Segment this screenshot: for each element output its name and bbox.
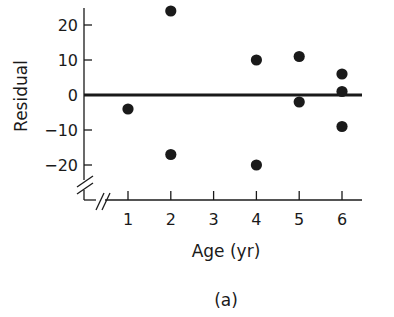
data-point xyxy=(251,54,262,65)
y-tick-label: −20 xyxy=(44,156,78,175)
data-point xyxy=(336,86,347,97)
x-tick-label: 3 xyxy=(209,210,219,229)
data-point xyxy=(165,149,176,160)
x-tick-label: 6 xyxy=(337,210,347,229)
ticks: 20100−10−20123456 xyxy=(44,16,347,229)
y-tick-label: −10 xyxy=(44,121,78,140)
data-point xyxy=(122,103,133,114)
residual-scatter-chart: 20100−10−20123456 Residual Age (yr) (a) xyxy=(0,0,394,317)
data-point xyxy=(336,121,347,132)
data-point xyxy=(336,68,347,79)
y-tick-label: 10 xyxy=(58,51,78,70)
data-point xyxy=(165,5,176,16)
x-tick-label: 1 xyxy=(123,210,133,229)
data-point xyxy=(294,51,305,62)
x-tick-label: 4 xyxy=(251,210,261,229)
data-point xyxy=(251,159,262,170)
y-tick-label: 0 xyxy=(68,86,78,105)
axes xyxy=(77,8,362,210)
data-point xyxy=(294,96,305,107)
y-axis-title: Residual xyxy=(11,60,31,132)
x-axis-title: Age (yr) xyxy=(192,241,261,261)
y-tick-label: 20 xyxy=(58,16,78,35)
data-points xyxy=(122,5,347,170)
x-tick-label: 5 xyxy=(294,210,304,229)
figure-caption: (a) xyxy=(214,290,238,310)
x-tick-label: 2 xyxy=(166,210,176,229)
